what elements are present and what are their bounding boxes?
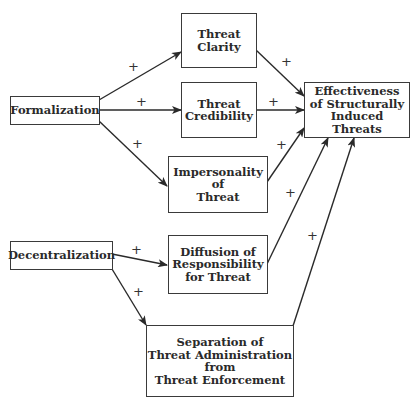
- node-label: Formalization: [10, 104, 99, 117]
- node-separation: Separation of Threat Administration from…: [146, 325, 294, 397]
- node-label: Threat Credibility: [185, 98, 253, 123]
- arrow-formalization-clarity: [99, 52, 181, 100]
- sign-separation-effectiveness: +: [307, 228, 318, 243]
- sign-decentralization-diffusion: +: [131, 242, 142, 257]
- node-threat-credibility: Threat Credibility: [181, 82, 257, 138]
- node-label: Threat Clarity: [197, 28, 240, 53]
- node-label: Diffusion of Responsibility for Threat: [172, 246, 263, 284]
- node-formalization: Formalization: [10, 96, 100, 125]
- node-label: Separation of Threat Administration from…: [148, 336, 292, 386]
- node-decentralization: Decentralization: [10, 241, 113, 270]
- sign-formalization-clarity: +: [128, 59, 139, 74]
- node-threat-clarity: Threat Clarity: [181, 13, 257, 68]
- arrow-formalization-impersonality: [99, 121, 167, 186]
- arrow-clarity-effectiveness: [256, 50, 304, 96]
- sign-diffusion-effectiveness: +: [285, 185, 296, 200]
- node-label: Effectiveness of Structurally Induced Th…: [305, 85, 409, 135]
- node-diffusion: Diffusion of Responsibility for Threat: [168, 235, 268, 294]
- node-label: Decentralization: [8, 249, 115, 262]
- node-label: Impersonality of Threat: [173, 166, 263, 204]
- sign-formalization-credibility: +: [136, 94, 147, 109]
- sign-formalization-impersonality: +: [132, 136, 143, 151]
- node-effectiveness: Effectiveness of Structurally Induced Th…: [304, 82, 410, 138]
- node-impersonality: Impersonality of Threat: [168, 156, 268, 213]
- arrow-separation-effectiveness: [293, 138, 354, 326]
- sign-impersonality-effectiveness: +: [276, 137, 287, 152]
- sign-credibility-effectiveness: +: [268, 94, 279, 109]
- sign-clarity-effectiveness: +: [281, 54, 292, 69]
- sign-decentralization-separation: +: [133, 284, 144, 299]
